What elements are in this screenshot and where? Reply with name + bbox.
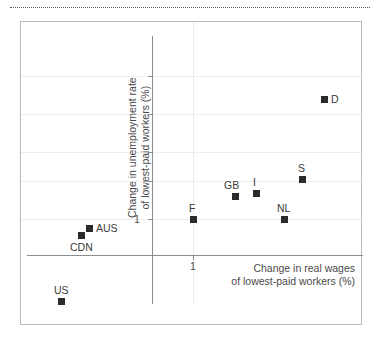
x-axis-title-line2: of lowest-paid workers (%) [231,275,355,287]
x-axis-title-line1: Change in real wages [253,262,355,274]
gridline-horizontal [21,76,363,77]
data-point-label: AUS [96,222,118,234]
data-point-label: NL [277,202,290,214]
y-axis-tick [148,219,153,220]
data-point-label: CDN [70,241,93,253]
data-point-label: S [298,162,305,174]
x-axis-line [27,255,363,256]
data-point-marker [78,232,85,239]
y-axis-title-line1: Change in unemployment rate [126,77,138,218]
data-point-marker [253,190,260,197]
data-point-label: I [253,176,256,188]
data-point-marker [58,298,65,305]
gridline-horizontal [21,181,363,182]
data-point-marker [190,216,197,223]
data-point-marker [321,96,328,103]
x-axis-title: Change in real wages of lowest-paid work… [215,262,355,287]
data-point-marker [86,225,93,232]
x-axis-tick-label-1: 1 [190,260,196,272]
top-dotted-rule [10,7,370,8]
gridline-horizontal [21,114,363,115]
data-point-label: US [54,284,69,296]
data-point-marker [299,176,306,183]
data-point-label: GB [224,179,239,191]
data-point-label: F [189,202,195,214]
y-axis-title-line2: of lowest-paid workers (%) [139,86,151,210]
gridline-horizontal [21,152,363,153]
data-point-marker [232,193,239,200]
chart-frame: 1 1 Change in unemployment rate of lowes… [20,21,362,325]
y-axis-title: Change in unemployment rate of lowest-pa… [126,77,151,218]
data-point-label: D [331,93,339,105]
data-point-marker [281,216,288,223]
